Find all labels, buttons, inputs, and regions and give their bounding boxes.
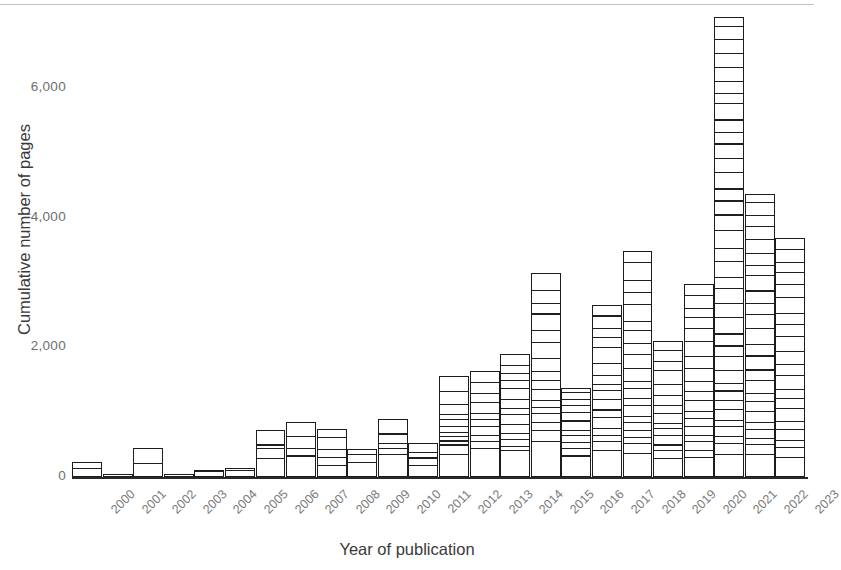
bar-segment-divider (257, 448, 285, 449)
x-tick-label-2015: 2015 (567, 487, 597, 517)
bar-segment-divider (715, 420, 743, 421)
bar-segment-divider (685, 308, 713, 309)
bar-segment-divider (746, 401, 774, 402)
bar-segment-divider (440, 426, 468, 427)
bar-segment-divider (532, 400, 560, 401)
bar-2002 (133, 448, 163, 477)
bar-segment-divider (746, 239, 774, 240)
bar-segment-divider (685, 368, 713, 369)
bar-segment-divider (379, 454, 407, 455)
bar-segment-divider (715, 172, 743, 173)
bar-2009 (347, 449, 377, 477)
bar-segment-divider (471, 382, 499, 383)
bar-segment-divider (624, 304, 652, 305)
bar-segment-divider (776, 375, 804, 376)
bar-segment-divider (654, 405, 682, 406)
bar-2013 (470, 371, 500, 477)
bar-segment-divider (562, 455, 590, 456)
bar-segment-divider (746, 275, 774, 276)
bar-segment-divider (776, 249, 804, 250)
x-tick-label-2006: 2006 (292, 487, 322, 517)
bar-segment-divider (776, 408, 804, 409)
bar-2015 (531, 273, 561, 477)
bar-segment-divider (532, 342, 560, 343)
bar-segment-divider (440, 454, 468, 455)
bar-segment-divider (715, 248, 743, 249)
bar-segment-divider (593, 347, 621, 348)
bar-segment-divider (624, 422, 652, 423)
bar-segment-divider (501, 424, 529, 425)
bar-segment-divider (715, 443, 743, 444)
bar-segment-divider (715, 356, 743, 357)
bar-segment-divider (654, 423, 682, 424)
bar-segment-divider (532, 407, 560, 408)
x-tick-label-2016: 2016 (598, 487, 628, 517)
bar-segment-divider (562, 448, 590, 449)
x-tick-label-2014: 2014 (536, 487, 566, 517)
bar-2021 (714, 17, 744, 477)
bar-segment-divider (776, 398, 804, 399)
bar-segment-divider (562, 392, 590, 393)
bar-segment-divider (715, 436, 743, 437)
bar-segment-divider (776, 324, 804, 325)
bar-segment-divider (409, 457, 437, 458)
bar-segment-divider (715, 409, 743, 410)
bar-segment-divider (654, 361, 682, 362)
bar-segment-divider (685, 295, 713, 296)
bar-2017 (592, 305, 622, 477)
bar-segment-divider (471, 393, 499, 394)
bar-2023 (775, 238, 805, 477)
bar-segment-divider (746, 344, 774, 345)
bar-segment-divider (746, 253, 774, 254)
bar-segment-divider (562, 399, 590, 400)
y-axis-title: Cumulative number of pages (15, 100, 34, 360)
x-tick-label-2013: 2013 (506, 487, 536, 517)
bar-segment-divider (532, 358, 560, 359)
bar-2014 (500, 354, 530, 477)
bar-segment-divider (287, 448, 315, 449)
bar-segment-divider (746, 369, 774, 370)
x-tick-label-2009: 2009 (384, 487, 414, 517)
bar-segment-divider (715, 93, 743, 94)
bar-segment-divider (624, 330, 652, 331)
bar-segment-divider (532, 413, 560, 414)
bar-2005 (225, 468, 255, 477)
bar-segment-divider (776, 336, 804, 337)
bar-segment-divider (440, 404, 468, 405)
bar-segment-divider (226, 470, 254, 471)
bar-segment-divider (776, 272, 804, 273)
bar-segment-divider (746, 429, 774, 430)
bar-2000 (72, 462, 102, 477)
bar-segment-divider (501, 399, 529, 400)
bar-2018 (623, 251, 653, 477)
bar-segment-divider (471, 402, 499, 403)
bar-segment-divider (562, 405, 590, 406)
bar-segment-divider (746, 444, 774, 445)
bar-segment-divider (593, 441, 621, 442)
x-tick-label-2002: 2002 (169, 487, 199, 517)
bar-2007 (286, 422, 316, 477)
bar-segment-divider (746, 202, 774, 203)
bar-segment-divider (776, 284, 804, 285)
bar-segment-divider (715, 158, 743, 159)
plot-area (72, 9, 806, 477)
bar-segment-divider (685, 441, 713, 442)
bar-segment-divider (134, 463, 162, 464)
bar-segment-divider (593, 384, 621, 385)
bar-segment-divider (776, 421, 804, 422)
bar-segment-divider (746, 314, 774, 315)
bar-segment-divider (471, 448, 499, 449)
y-tick-label: 0 (8, 468, 66, 483)
bar-segment-divider (715, 132, 743, 133)
bar-segment-divider (776, 297, 804, 298)
bar-segment-divider (624, 343, 652, 344)
bar-segment-divider (318, 457, 346, 458)
x-tick-label-2018: 2018 (659, 487, 689, 517)
x-axis-title: Year of publication (0, 540, 814, 559)
x-tick-label-2021: 2021 (751, 487, 781, 517)
bar-segment-divider (746, 380, 774, 381)
bar-segment-divider (409, 452, 437, 453)
bar-segment-divider (624, 292, 652, 293)
x-tick-label-2004: 2004 (231, 487, 261, 517)
bar-segment-divider (715, 303, 743, 304)
